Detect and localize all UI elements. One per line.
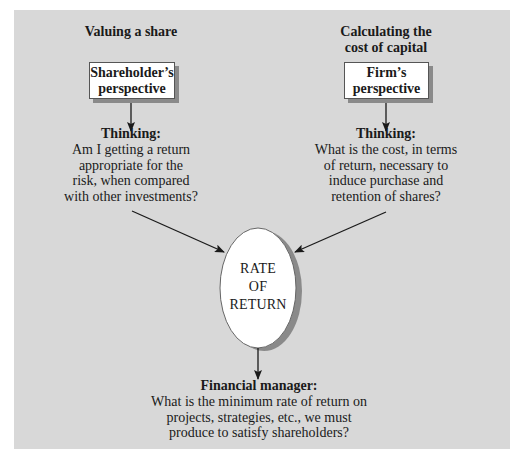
shareholder-box-line-1: Shareholder’s: [90, 65, 174, 81]
firm-thinking-line: induce purchase and: [296, 173, 476, 189]
rate-of-return-label: RATE OF RETURN: [218, 260, 298, 314]
shareholder-thinking-heading: Thinking:: [46, 126, 216, 142]
shareholder-perspective-box: Shareholder’s perspective: [89, 62, 175, 99]
shareholder-box-line-2: perspective: [90, 81, 174, 97]
financial-manager-line: What is the minimum rate of return on: [128, 394, 390, 410]
firm-perspective-box: Firm’s perspective: [344, 62, 429, 99]
firm-thinking-heading: Thinking:: [296, 126, 476, 142]
right-to-rate-arrow: [295, 212, 386, 252]
firm-thinking-text: Thinking: What is the cost, in terms of …: [296, 126, 476, 205]
left-column-title: Valuing a share: [51, 24, 211, 40]
shareholder-thinking-line: appropriate for the: [46, 158, 216, 174]
right-title-line-2: cost of capital: [306, 40, 466, 56]
firm-box-line-1: Firm’s: [345, 65, 428, 81]
shareholder-thinking-line: risk, when compared: [46, 173, 216, 189]
left-to-rate-arrow: [132, 211, 224, 252]
right-column-title: Calculating the cost of capital: [306, 24, 466, 56]
financial-manager-line: projects, strategies, etc., we must: [128, 410, 390, 426]
firm-thinking-line: What is the cost, in terms: [296, 142, 476, 158]
shareholder-thinking-text: Thinking: Am I getting a return appropri…: [46, 126, 216, 205]
financial-manager-text: Financial manager: What is the minimum r…: [128, 378, 390, 441]
financial-manager-heading: Financial manager:: [128, 378, 390, 394]
shareholder-thinking-line: with other investments?: [46, 189, 216, 205]
shareholder-thinking-line: Am I getting a return: [46, 142, 216, 158]
rate-label-line-1: RATE: [218, 260, 298, 278]
rate-label-line-3: RETURN: [218, 296, 298, 314]
firm-thinking-line: retention of shares?: [296, 189, 476, 205]
firm-thinking-line: of return, necessary to: [296, 158, 476, 174]
rate-label-line-2: OF: [218, 278, 298, 296]
firm-box-line-2: perspective: [345, 81, 428, 97]
right-title-line-1: Calculating the: [306, 24, 466, 40]
financial-manager-line: produce to satisfy shareholders?: [128, 425, 390, 441]
